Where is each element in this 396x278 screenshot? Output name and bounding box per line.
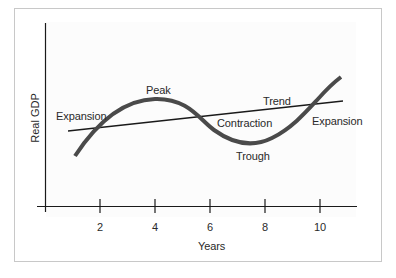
x-tick-label: 6	[200, 222, 220, 233]
label-trough: Trough	[236, 151, 270, 162]
x-axis-label: Years	[198, 241, 225, 252]
label-contraction: Contraction	[217, 118, 272, 129]
label-expansion-right: Expansion	[312, 116, 362, 127]
business-cycle-curve	[75, 77, 341, 156]
x-tick-label: 4	[145, 222, 165, 233]
x-tick-label: 10	[310, 222, 330, 233]
label-trend: Trend	[263, 96, 291, 107]
y-axis-label: Real GDP	[29, 93, 41, 143]
x-tick-label: 2	[90, 222, 110, 233]
label-peak: Peak	[146, 85, 171, 96]
x-tick-label: 8	[255, 222, 275, 233]
business-cycle-chart	[0, 0, 396, 278]
label-expansion-left: Expansion	[56, 111, 106, 122]
